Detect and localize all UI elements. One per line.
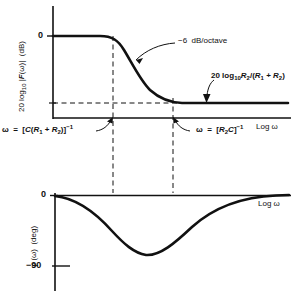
magnitude-plot-group bbox=[47, 6, 291, 193]
magnitude-zero-tick-label: 0 bbox=[38, 31, 43, 40]
magnitude-y-axis-title: 20 log10 |F(ω)| (dB) bbox=[18, 41, 26, 112]
phase-x-axis-label: Log ω bbox=[258, 200, 280, 208]
phase-plot-group bbox=[50, 193, 291, 291]
slope-annotation-label: −6 dB/octave bbox=[178, 37, 227, 45]
magnitude-curve bbox=[53, 36, 288, 103]
bode-plot-figure: 0 20 log10 |F(ω)| (dB) −6 dB/octave 20 l… bbox=[0, 0, 305, 298]
asymptote-arrowhead bbox=[203, 94, 211, 103]
phase-curve bbox=[55, 195, 289, 255]
corner-low-frequency-label: ω = [C(R1 + R2)]−1 bbox=[2, 126, 73, 134]
magnitude-x-axis-label: Log ω bbox=[256, 123, 278, 131]
plot-canvas bbox=[0, 0, 305, 298]
corner-high-frequency-label: ω = [R2C]−1 bbox=[196, 126, 243, 134]
phase-zero-tick-label: 0 bbox=[41, 190, 46, 199]
slope-leader-line bbox=[136, 43, 175, 60]
phase-y-axis-title: φ (ω) (deg) bbox=[30, 226, 38, 268]
asymptote-annotation-label: 20 log10R2/(R1 + R2) bbox=[211, 72, 285, 80]
asymptote-leader-line bbox=[207, 80, 214, 95]
